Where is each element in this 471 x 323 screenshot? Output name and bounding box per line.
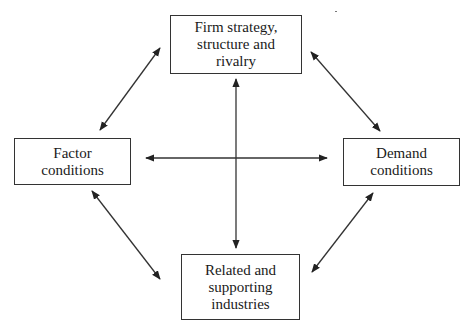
node-firm-strategy: Firm strategy, structure and rivalry bbox=[170, 15, 302, 74]
arrow-related-demand bbox=[312, 193, 373, 272]
node-related-industries: Related and supporting industries bbox=[181, 254, 300, 320]
node-demand-conditions-label: Demand conditions bbox=[370, 145, 433, 179]
node-factor-conditions: Factor conditions bbox=[14, 138, 131, 185]
stray-mark bbox=[335, 11, 337, 12]
porter-diamond-diagram: Firm strategy, structure and rivalry Fac… bbox=[0, 0, 471, 323]
arrow-factor-firm bbox=[100, 48, 160, 130]
node-demand-conditions: Demand conditions bbox=[343, 138, 460, 186]
arrow-firm-demand bbox=[311, 52, 380, 131]
node-related-industries-label: Related and supporting industries bbox=[205, 262, 276, 313]
node-firm-strategy-label: Firm strategy, structure and rivalry bbox=[194, 19, 277, 70]
arrow-factor-related bbox=[92, 191, 160, 279]
node-factor-conditions-label: Factor conditions bbox=[41, 145, 104, 179]
